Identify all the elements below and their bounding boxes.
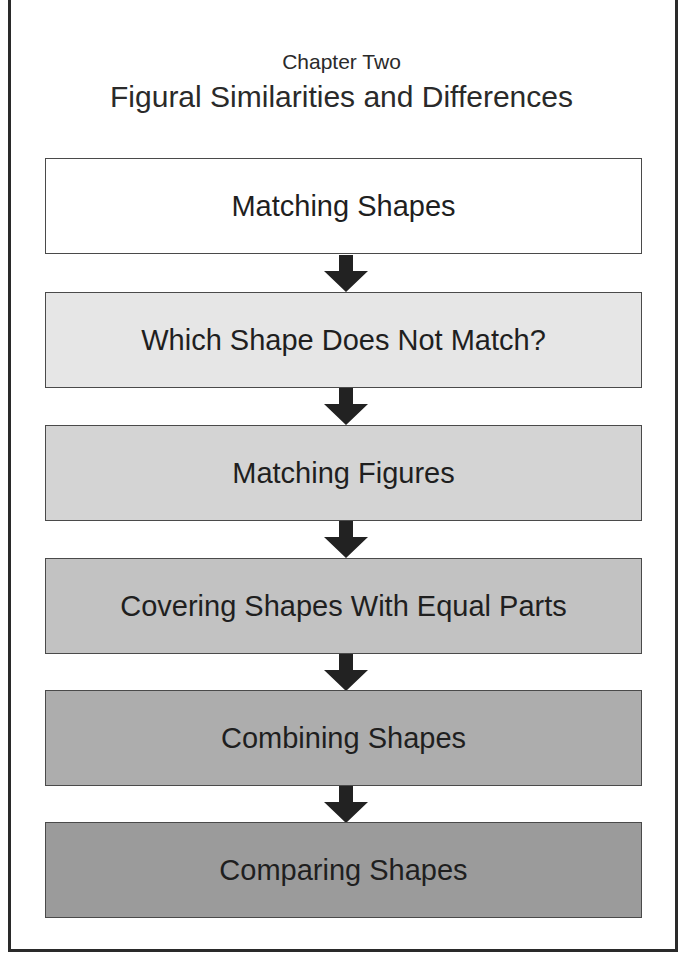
down-arrow-icon [324,521,368,558]
flow-step-label: Combining Shapes [221,722,466,755]
flow-step-5: Combining Shapes [45,690,642,786]
down-arrow-icon [324,786,368,823]
down-arrow-icon [324,388,368,425]
flow-step-label: Comparing Shapes [219,854,467,887]
flow-step-label: Matching Figures [232,457,454,490]
down-arrow-icon [324,654,368,691]
flow-step-4: Covering Shapes With Equal Parts [45,558,642,654]
flow-step-label: Which Shape Does Not Match? [141,324,546,357]
flow-step-3: Matching Figures [45,425,642,521]
flow-step-label: Matching Shapes [231,190,455,223]
chapter-label: Chapter Two [0,50,683,74]
chapter-title: Figural Similarities and Differences [0,80,683,114]
flow-step-1: Matching Shapes [45,158,642,254]
down-arrow-icon [324,255,368,292]
flow-step-label: Covering Shapes With Equal Parts [120,590,567,623]
flow-step-2: Which Shape Does Not Match? [45,292,642,388]
flow-step-6: Comparing Shapes [45,822,642,918]
